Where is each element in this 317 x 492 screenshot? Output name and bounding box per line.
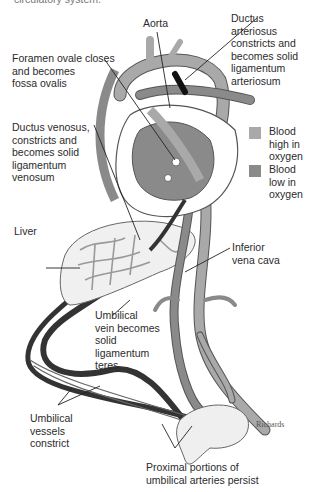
label-liver: Liver: [14, 225, 37, 238]
artist-signature: Richards: [256, 420, 284, 429]
label-inferior-vena-cava: Inferior vena cava: [232, 241, 280, 266]
legend-swatch-low-oxygen: [249, 165, 261, 177]
label-ductus-arteriosus: Ductus arteriosus constricts and becomes…: [231, 12, 298, 87]
heart: [116, 105, 238, 216]
label-foramen-ovale: Foramen ovale closes and becomes fossa o…: [12, 52, 115, 90]
label-umbilical-vein: Umbilical vein becomes solid ligamentum …: [95, 309, 160, 372]
label-proximal-portions: Proximal portions of umbilical arteries …: [146, 461, 259, 486]
label-ductus-venosus: Ductus venosus, constricts and becomes s…: [12, 121, 90, 184]
label-umbilical-vessels: Umbilical vessels constrict: [30, 412, 73, 450]
legend-swatch-high-oxygen: [249, 127, 261, 139]
legend-label-high-oxygen: Blood high in oxygen: [269, 125, 303, 163]
legend-label-low-oxygen: Blood low in oxygen: [269, 163, 303, 201]
label-aorta: Aorta: [143, 17, 168, 30]
bladder: [177, 405, 249, 464]
